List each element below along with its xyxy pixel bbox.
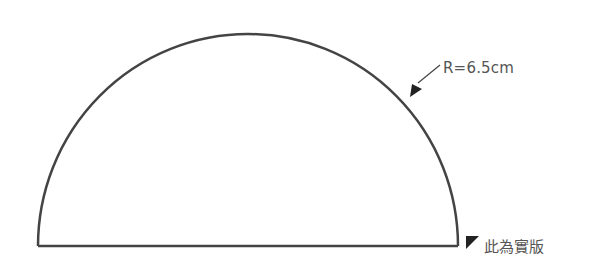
triangle-marker-icon	[466, 236, 479, 249]
actual-size-note: 此為實版	[484, 235, 544, 256]
actual-size-note-text: 此為實版	[484, 235, 544, 256]
semicircle-arc	[38, 34, 458, 246]
radius-label: R=6.5cm	[443, 59, 514, 77]
radius-arrow-icon	[410, 65, 440, 97]
diagram-canvas: R=6.5cm 此為實版	[0, 0, 591, 261]
semicircle-figure	[0, 0, 591, 261]
